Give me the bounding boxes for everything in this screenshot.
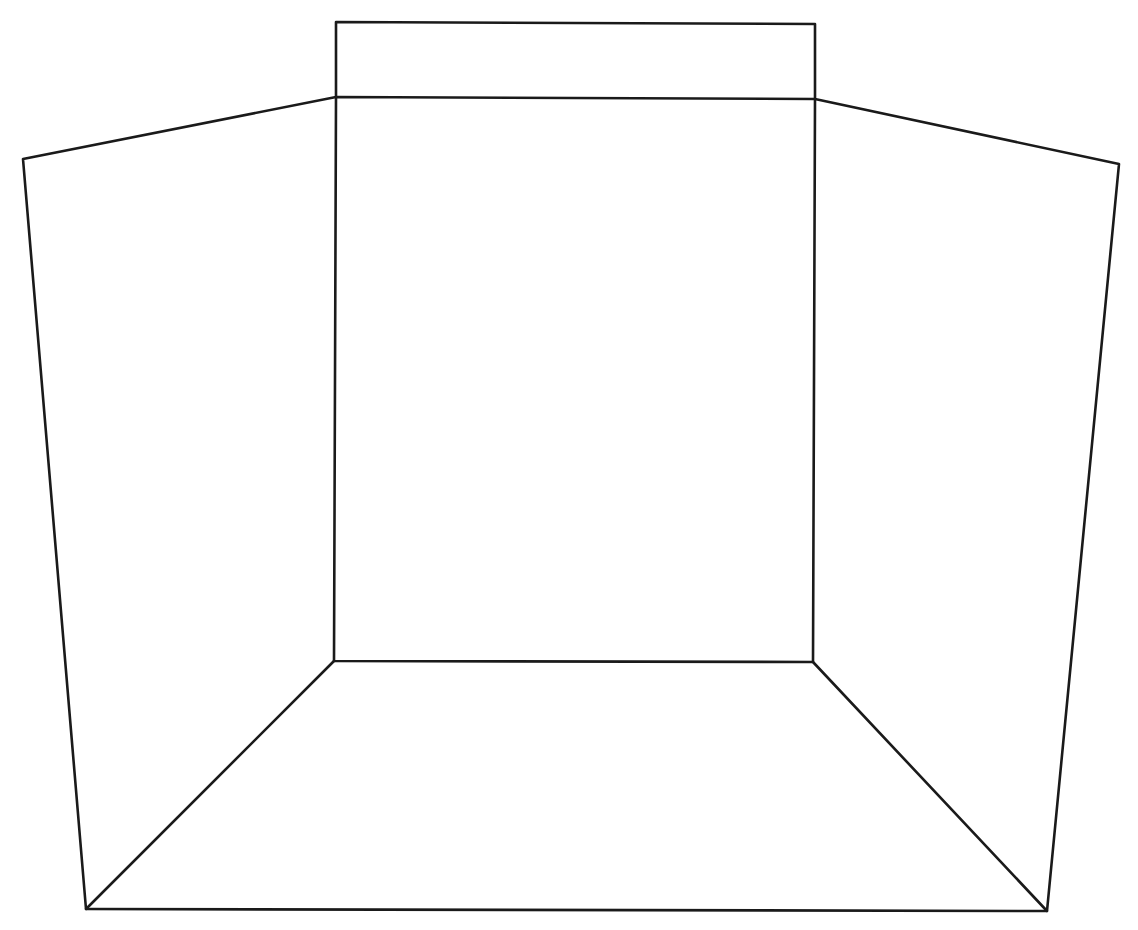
box-diagram (0, 0, 1138, 930)
background (0, 0, 1138, 930)
